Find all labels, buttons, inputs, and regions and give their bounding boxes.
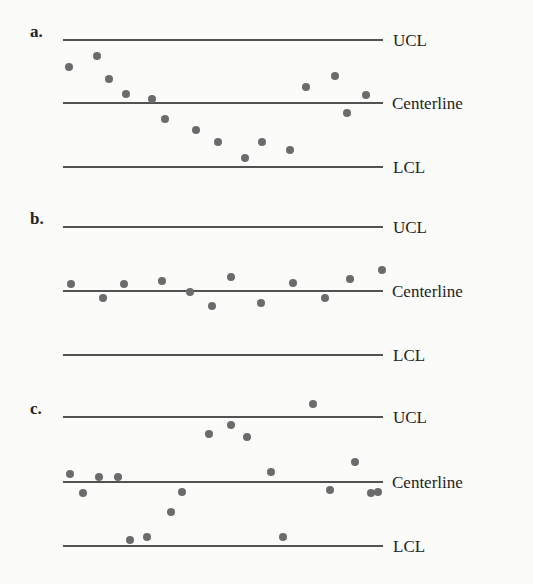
chart-a: a.UCLCenterlineLCL [30,22,463,177]
data-point [241,154,249,162]
data-point [343,109,351,117]
data-point [243,433,251,441]
data-point [302,83,310,91]
data-point [367,489,375,497]
data-point [378,266,386,274]
data-point [143,533,151,541]
ucl-label: UCL [393,31,427,50]
data-point [126,536,134,544]
data-point [289,279,297,287]
data-point [192,126,200,134]
data-point [227,421,235,429]
panel-label: b. [30,209,44,228]
chart-b: b.UCLCenterlineLCL [30,209,463,365]
data-point [331,72,339,80]
ucl-label: UCL [393,408,427,427]
data-point [326,486,334,494]
panel-label: a. [30,22,43,41]
data-point [167,508,175,516]
data-point [208,302,216,310]
data-point [158,277,166,285]
data-point [114,473,122,481]
data-point [122,90,130,98]
data-point [186,288,194,296]
control-charts: a.UCLCenterlineLCLb.UCLCenterlineLCLc.UC… [0,0,533,584]
data-point [120,280,128,288]
lcl-label: LCL [393,158,425,177]
centerline-label: Centerline [392,282,463,301]
lcl-label: LCL [393,537,425,556]
data-point [99,294,107,302]
data-point [346,275,354,283]
data-point [214,138,222,146]
data-point [178,488,186,496]
data-point [148,95,156,103]
data-point [309,400,317,408]
data-point [205,430,213,438]
data-point [267,468,275,476]
data-point [258,138,266,146]
data-point [279,533,287,541]
data-point [66,470,74,478]
data-point [286,146,294,154]
data-point [105,75,113,83]
data-point [321,294,329,302]
lcl-label: LCL [393,346,425,365]
data-point [227,273,235,281]
data-point [161,115,169,123]
data-point [362,91,370,99]
data-point [374,488,382,496]
data-point [67,280,75,288]
data-point [351,458,359,466]
data-point [93,52,101,60]
data-point [95,473,103,481]
centerline-label: Centerline [392,473,463,492]
data-point [79,489,87,497]
data-point [257,299,265,307]
panel-label: c. [30,399,42,418]
data-point [65,63,73,71]
chart-c: c.UCLCenterlineLCL [30,399,463,556]
centerline-label: Centerline [392,94,463,113]
ucl-label: UCL [393,218,427,237]
